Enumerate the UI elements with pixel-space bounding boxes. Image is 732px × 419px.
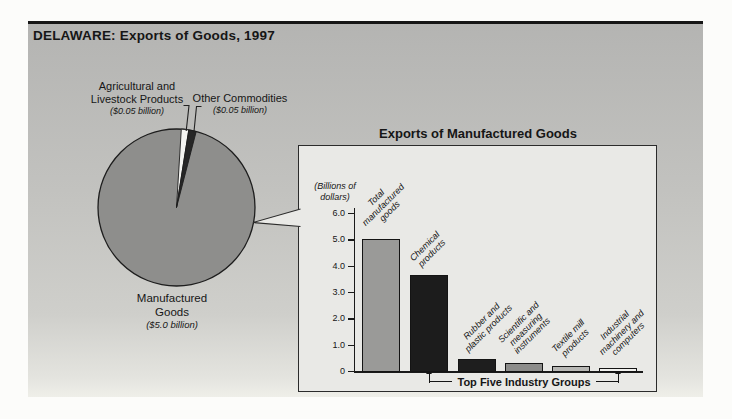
y-tick-label-3.0: 3.0	[317, 287, 345, 297]
bar-plot: (Billions of dollars) Top Five Industry …	[299, 146, 656, 391]
pie-label-manufactured: Manufactured Goods ($5.0 billion)	[112, 291, 232, 330]
bar-2	[458, 359, 496, 372]
y-tick-mark-1.0	[348, 345, 354, 346]
y-tick-mark-0	[348, 371, 354, 372]
y-tick-mark-2.0	[348, 318, 354, 319]
bar-4	[552, 366, 590, 372]
pie-label-other-line1: Other Commodities	[179, 92, 301, 105]
y-tick-label-0: 0	[317, 366, 345, 376]
bar-chart-title: Exports of Manufactured Goods	[318, 126, 638, 141]
pie-label-other-value: ($0.05 billion)	[179, 105, 301, 116]
y-tick-label-2.0: 2.0	[317, 313, 345, 323]
y-tick-mark-3.0	[348, 292, 354, 293]
y-tick-mark-4.0	[348, 266, 354, 267]
bar-4-label: Textile millproducts	[551, 318, 594, 361]
pie-label-manufactured-line2: Goods	[112, 305, 232, 319]
y-tick-label-1.0: 1.0	[317, 340, 345, 350]
bar-chart-box: (Billions of dollars) Top Five Industry …	[298, 145, 657, 392]
bar-3	[505, 363, 543, 372]
bar-1-label: Chemicalproducts	[409, 230, 449, 270]
y-tick-label-6.0: 6.0	[317, 208, 345, 218]
top-five-industry-groups-label: Top Five Industry Groups	[454, 376, 594, 388]
bar-5-label: Industrialmachinery andcomputers	[591, 301, 653, 363]
y-axis-label: (Billions of dollars)	[303, 181, 367, 202]
y-axis-label-line1: (Billions of	[303, 181, 367, 192]
y-axis-label-line2: dollars)	[303, 192, 367, 203]
pie-label-manufactured-line1: Manufactured	[112, 291, 232, 305]
y-axis-line	[354, 208, 355, 372]
bracket-left-line	[430, 381, 452, 382]
bar-1	[410, 275, 448, 372]
bar-0	[362, 239, 400, 372]
pie-label-manufactured-value: ($5.0 billion)	[112, 319, 232, 330]
bar-5	[599, 368, 637, 372]
y-tick-label-5.0: 5.0	[317, 234, 345, 244]
pie-label-other: Other Commodities ($0.05 billion)	[179, 92, 301, 116]
panel-top-rule	[28, 21, 703, 24]
y-tick-mark-5.0	[348, 239, 354, 240]
report-title: DELAWARE: Exports of Goods, 1997	[33, 28, 275, 43]
bracket-right-line	[596, 381, 618, 382]
y-tick-label-4.0: 4.0	[317, 261, 345, 271]
